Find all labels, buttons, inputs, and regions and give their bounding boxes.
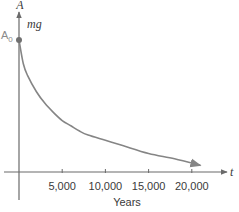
x-tick-label: 10,000 — [89, 180, 123, 192]
initial-value-point — [16, 37, 22, 43]
initial-value-label-sub: 0 — [8, 35, 13, 44]
initial-value-label: A0 — [1, 29, 13, 44]
x-axis-title: Years — [113, 196, 141, 208]
unit-label: mg — [27, 17, 42, 31]
decay-chart: 5,00010,00015,00020,000 A mg A0 t Years — [0, 0, 239, 212]
x-tick-label: 15,000 — [132, 180, 166, 192]
decay-curve — [19, 40, 200, 165]
x-tick-label: 20,000 — [175, 180, 209, 192]
x-axis-variable-label: t — [230, 165, 234, 179]
y-axis-variable-label: A — [15, 0, 24, 12]
x-tick-label: 5,000 — [48, 180, 76, 192]
